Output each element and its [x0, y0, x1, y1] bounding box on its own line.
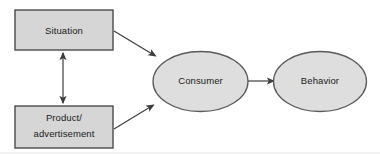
node-behavior-label: Behavior [301, 75, 339, 86]
edge-product-to-consumer [114, 105, 154, 129]
node-situation-label: Situation [45, 25, 83, 36]
node-product-advertisement-label-line2: advertisement [34, 128, 95, 139]
edge-situation-to-consumer [114, 31, 156, 56]
diagram-svg: Situation Product/ advertisement Consume… [0, 0, 380, 154]
node-product-advertisement-label-line1: Product/ [46, 112, 82, 123]
node-consumer-label: Consumer [178, 75, 223, 86]
diagram-canvas: Situation Product/ advertisement Consume… [0, 0, 380, 154]
bottom-edge-tint [0, 152, 380, 154]
